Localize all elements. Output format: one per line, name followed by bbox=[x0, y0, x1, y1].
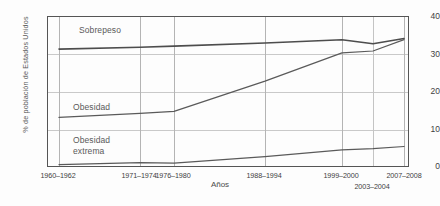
x-tick-label-2007-2008: 2007–2008 bbox=[386, 171, 421, 180]
x-tick-label-1960-1962: 1960–1962 bbox=[40, 171, 75, 180]
x-tick-label-1988-1994: 1988–1994 bbox=[246, 171, 281, 180]
y-tick-label-40: 40 bbox=[418, 11, 440, 21]
line-sobrepeso bbox=[59, 39, 404, 50]
series-label-sobrepeso: Sobrepeso bbox=[79, 25, 121, 36]
x-tick-label-1999-2000: 1999–2000 bbox=[323, 171, 358, 180]
y-tick-label-20: 20 bbox=[418, 86, 440, 96]
y-tick-label-10: 10 bbox=[418, 124, 440, 134]
y-axis-title: % de población de Estados Unidos bbox=[21, 0, 30, 160]
x-axis-title: Años bbox=[0, 180, 440, 189]
series-label-obesidad: Obesidad bbox=[73, 102, 110, 113]
x-tick-label-1971-1974: 1971–1974 bbox=[121, 171, 156, 180]
series-label-obesidad-extrema: Obesidad extrema bbox=[73, 135, 110, 157]
chart-figure: % de población de Estados Unidos 40 30 2… bbox=[0, 0, 440, 206]
line-obesidad bbox=[59, 40, 404, 118]
plot-area: Sobrepeso Obesidad Obesidad extrema bbox=[47, 16, 409, 167]
x-tick-label-1976-1980: 1976–1980 bbox=[155, 171, 190, 180]
line-obesidad-extrema bbox=[59, 147, 404, 165]
y-tick-label-30: 30 bbox=[418, 49, 440, 59]
y-tick-label-0: 0 bbox=[418, 161, 440, 171]
